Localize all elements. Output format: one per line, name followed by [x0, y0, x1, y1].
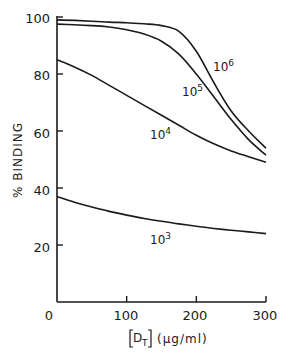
x-axis-title-sub: T: [141, 338, 149, 348]
x-tick-label: 300: [253, 308, 278, 323]
curve-label-1e6: 106: [213, 58, 234, 74]
y-tick-label: 100: [25, 11, 50, 26]
y-tick-label: 80: [33, 68, 50, 83]
y-tick-label: 20: [33, 240, 50, 255]
curve-label-1e3: 103: [150, 231, 171, 247]
x-tick-label: 100: [114, 308, 139, 323]
x-tick-label: 0: [45, 308, 53, 323]
series-line-10e4: [57, 60, 266, 163]
curve-label-1e5: 105: [182, 83, 203, 99]
y-axis-title: % BINDING: [11, 122, 25, 198]
axis-ticks: [57, 17, 266, 302]
x-axis-title: D T (µg/ml): [130, 330, 208, 348]
x-tick-label: 200: [183, 308, 208, 323]
plot-lines: [57, 20, 266, 234]
binding-chart: 100 80 60 40 20 0 100 200 300 % BINDING …: [0, 0, 292, 356]
y-tick-label: 60: [33, 126, 50, 141]
curve-label-1e4: 104: [150, 126, 171, 142]
y-tick-label: 40: [33, 183, 50, 198]
series-line-10e3: [57, 197, 266, 234]
x-axis-title-unit: (µg/ml): [157, 332, 208, 346]
